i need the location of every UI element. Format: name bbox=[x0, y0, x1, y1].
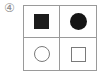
grid-cell-top-left bbox=[24, 6, 60, 38]
grid-cell-top-right bbox=[60, 6, 96, 38]
outline-circle-icon bbox=[34, 46, 50, 62]
grid-cell-bottom-left bbox=[24, 38, 60, 70]
grid-cell-bottom-right bbox=[60, 38, 96, 70]
outline-square-icon bbox=[71, 47, 86, 62]
shape-grid bbox=[23, 5, 97, 71]
option-label: ④ bbox=[4, 1, 15, 15]
filled-circle-icon bbox=[70, 13, 87, 30]
filled-square-icon bbox=[34, 14, 49, 29]
